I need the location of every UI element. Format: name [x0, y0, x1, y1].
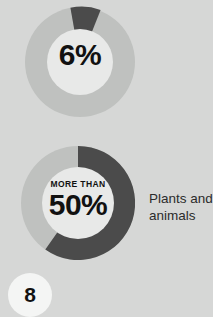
series-label-line-1: Plants and [149, 191, 213, 206]
top-donut-chart [25, 7, 135, 117]
step-badge-number: 8 [24, 284, 36, 305]
bottom-donut-chart [21, 146, 135, 260]
bottom-donut-hole [42, 167, 114, 239]
step-badge: 8 [8, 273, 52, 317]
top-donut-hole [47, 29, 113, 95]
series-label-line-2: animals [149, 208, 196, 223]
series-label: Plants and animals [149, 190, 213, 225]
